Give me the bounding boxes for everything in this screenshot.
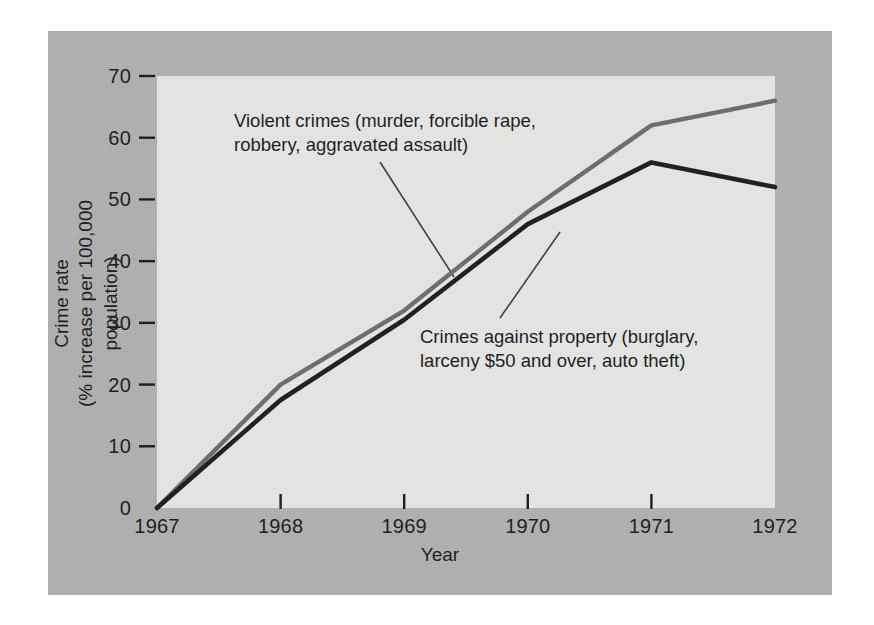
x-tick-label-1967: 1967	[112, 516, 202, 536]
y-tick-label-0: 0	[79, 498, 131, 518]
x-tick-label-1968: 1968	[236, 516, 326, 536]
x-axis-title: Year	[48, 544, 832, 566]
y-axis-tick-marks	[139, 76, 155, 446]
y-tick-label-60: 60	[79, 128, 131, 148]
figure-panel: 010203040506070 196719681969197019711972…	[48, 31, 832, 595]
y-axis-title-line-1: Crime rate	[50, 153, 74, 453]
y-axis-title: Crime rate (% increase per 100,000 popul…	[50, 153, 123, 453]
y-tick-label-70: 70	[79, 66, 131, 86]
series-line-violent-crimes	[157, 101, 775, 508]
y-axis-title-line-2: (% increase per 100,000 population)	[74, 153, 123, 453]
x-tick-label-1971: 1971	[606, 516, 696, 536]
annotation-violent-line-1: Violent crimes (murder, forcible rape,	[234, 109, 536, 133]
annotation-property-line-2: larceny $50 and over, auto theft)	[420, 349, 698, 373]
x-axis-tick-marks	[281, 494, 652, 509]
x-tick-label-1969: 1969	[359, 516, 449, 536]
annotation-leader-lines	[380, 162, 560, 318]
annotation-crimes-against-property: Crimes against property (burglary, larce…	[420, 325, 698, 374]
annotation-violent-crimes: Violent crimes (murder, forcible rape, r…	[234, 109, 536, 158]
annotation-property-line-1: Crimes against property (burglary,	[420, 325, 698, 349]
x-tick-label-1972: 1972	[730, 516, 820, 536]
annotation-violent-line-2: robbery, aggravated assault)	[234, 133, 536, 157]
x-tick-label-1970: 1970	[483, 516, 573, 536]
